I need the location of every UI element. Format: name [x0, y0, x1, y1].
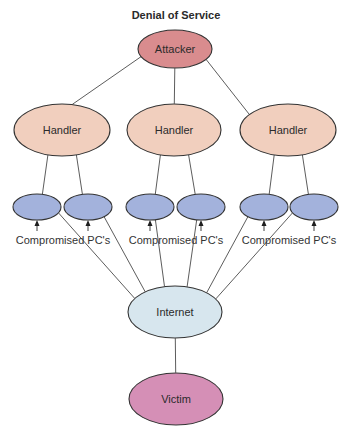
compromised-pcs-caption: Compromised PC's: [129, 234, 224, 246]
arrow-up-icon: [262, 220, 267, 231]
handler-label: Handler: [269, 124, 308, 136]
victim-node: Victim: [129, 373, 223, 425]
arrow-up-icon: [199, 220, 204, 231]
arrow-up-icon: [312, 220, 317, 231]
handler-node: Handler: [240, 104, 336, 156]
edge-pc-1-to-internet: [59, 213, 135, 298]
edge-handler-1-to-pc-1: [42, 155, 48, 194]
edge-handler-3-to-pc-5: [269, 155, 274, 194]
arrow-up-icon: [86, 220, 91, 231]
compromised-pc-ellipse: [64, 194, 112, 220]
victim-label: Victim: [161, 393, 191, 405]
handler-node: Handler: [14, 104, 110, 156]
edge-pc-6-to-internet: [216, 213, 293, 299]
compromised-pc-ellipse: [13, 194, 61, 220]
diagram-title: Denial of Service: [132, 9, 221, 21]
handler-node: Handler: [127, 104, 221, 156]
arrow-up-icon: [35, 220, 40, 231]
edge-attacker-to-handler-3: [206, 59, 249, 114]
edge-attacker-to-handler-1: [72, 57, 141, 105]
internet-node: Internet: [128, 286, 222, 338]
compromised-pcs-caption: Compromised PC's: [242, 234, 337, 246]
handler-label: Handler: [155, 124, 194, 136]
attacker-label: Attacker: [155, 43, 196, 55]
edge-handler-2-to-pc-4: [189, 155, 196, 194]
internet-label: Internet: [156, 306, 193, 318]
edge-handler-1-to-pc-2: [76, 155, 82, 194]
compromised-pc-ellipse: [240, 194, 288, 220]
edge-attacker-to-handler-2: [174, 68, 175, 104]
edge-pc-3-to-internet: [155, 220, 164, 287]
compromised-pc-ellipse: [290, 194, 338, 220]
arrow-up-icon: [148, 220, 153, 231]
compromised-pc-ellipse: [177, 194, 225, 220]
edge-pc-4-to-internet: [187, 220, 197, 287]
compromised-pcs-caption: Compromised PC's: [16, 234, 111, 246]
edge-handler-3-to-pc-6: [302, 155, 308, 194]
edge-pc-2-to-internet: [104, 217, 145, 292]
edge-handler-2-to-pc-3: [155, 155, 160, 194]
dos-diagram: Denial of Service Attacker Handler Handl…: [0, 0, 351, 440]
edge-pc-5-to-internet: [207, 217, 248, 293]
compromised-pc-ellipse: [126, 194, 174, 220]
handler-label: Handler: [43, 124, 82, 136]
attacker-node: Attacker: [138, 30, 212, 68]
